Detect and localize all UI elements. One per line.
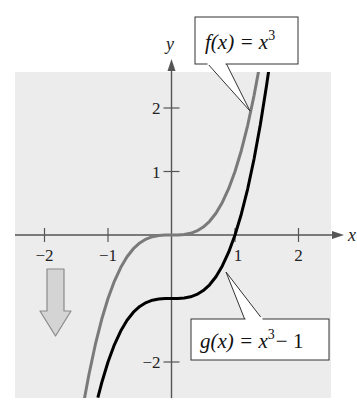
y-tick-label: 2 xyxy=(152,99,161,118)
x-tick-label: 1 xyxy=(234,246,243,265)
callout-g-text: g(x) = x3− 1 xyxy=(200,327,303,353)
x-axis-label: x xyxy=(347,225,356,245)
x-tick-label: −1 xyxy=(99,246,117,265)
y-axis-arrow-icon xyxy=(168,59,176,71)
cubic-function-chart: x y −2−112 21−2 f(x) = x3 g(x) = x3− 1 xyxy=(0,0,357,413)
callout-f-text: f(x) = x3 xyxy=(205,28,275,54)
y-tick-label: −2 xyxy=(142,353,160,372)
x-axis-arrow-icon xyxy=(332,231,344,239)
y-tick-label: 1 xyxy=(152,163,161,182)
y-axis-label: y xyxy=(164,34,174,54)
x-tick-label: −2 xyxy=(35,246,53,265)
x-tick-label: 2 xyxy=(294,246,303,265)
